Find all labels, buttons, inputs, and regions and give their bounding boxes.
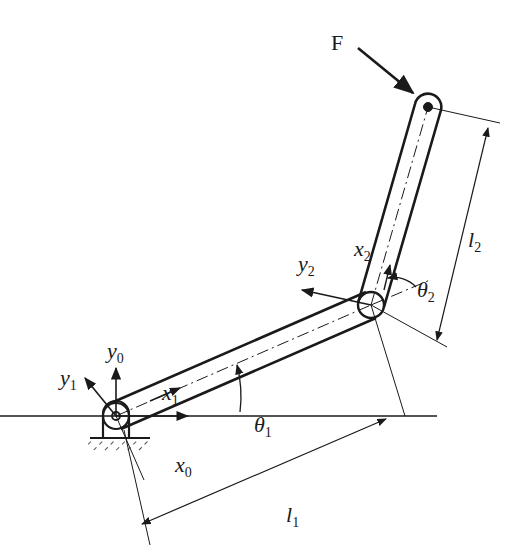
y0-label: y0 (105, 338, 124, 366)
l2-dimension-arrow (437, 128, 488, 340)
y2-label: y2 (296, 251, 315, 279)
force-arrow (358, 48, 413, 93)
x2-label: x2 (353, 236, 371, 264)
manipulator-diagram: F y0 y1 x1 x0 θ1 l1 y2 x2 θ2 l2 (0, 0, 523, 559)
link-1 (103, 292, 376, 429)
x0-label: x0 (174, 452, 192, 480)
l1-extension-line-elbow (371, 305, 405, 416)
x1-label: x1 (161, 380, 179, 408)
force-label: F (331, 30, 343, 55)
y1-label: y1 (58, 365, 77, 393)
y1-axis-arrow (85, 378, 116, 416)
l2-label: l2 (468, 227, 481, 255)
base-support (88, 401, 150, 452)
theta2-label: θ2 (417, 277, 435, 305)
theta1-arc (237, 365, 241, 412)
link-2 (358, 94, 441, 318)
l1-label: l1 (286, 502, 299, 530)
